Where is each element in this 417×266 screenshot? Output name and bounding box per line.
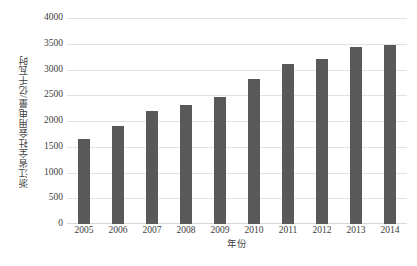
y-axis-title: 浙江省全社会用电量/亿千瓦时: [17, 26, 33, 216]
y-axis-tick-labels: 4000 3500 3000 2500 2000 1500 1000 500 0: [33, 18, 63, 224]
bar[interactable]: [248, 79, 260, 224]
bar[interactable]: [350, 47, 362, 224]
bar-slot: [203, 18, 237, 224]
bar-slot: [101, 18, 135, 224]
x-tick-label: 2009: [203, 226, 237, 236]
bar[interactable]: [180, 105, 192, 224]
bar-series: [67, 18, 407, 224]
y-tick-label: 1000: [33, 168, 63, 178]
bar[interactable]: [78, 139, 90, 224]
bar-slot: [169, 18, 203, 224]
bar-slot: [373, 18, 407, 224]
bar[interactable]: [316, 59, 328, 224]
bar-slot: [237, 18, 271, 224]
x-axis-tick-labels: 2005200620072008200920102011201220132014: [67, 226, 407, 236]
x-tick-label: 2006: [101, 226, 135, 236]
bar-chart: 浙江省全社会用电量/亿千瓦时 4000 3500 3000 2500 2000 …: [0, 0, 417, 266]
bar-slot: [135, 18, 169, 224]
bar[interactable]: [282, 64, 294, 224]
x-tick-label: 2008: [169, 226, 203, 236]
bar[interactable]: [146, 111, 158, 224]
x-axis-title: 年份: [67, 240, 407, 250]
y-tick-label: 2500: [33, 91, 63, 101]
bar-slot: [339, 18, 373, 224]
bar-slot: [67, 18, 101, 224]
y-tick-label: 500: [33, 194, 63, 204]
y-tick-label: 3000: [33, 65, 63, 75]
x-tick-label: 2010: [237, 226, 271, 236]
bar[interactable]: [112, 126, 124, 224]
x-tick-label: 2013: [339, 226, 373, 236]
y-tick-label: 0: [33, 219, 63, 229]
y-axis-title-text: 浙江省全社会用电量/亿千瓦时: [20, 55, 30, 188]
x-tick-label: 2012: [305, 226, 339, 236]
bar[interactable]: [384, 45, 396, 224]
bar-slot: [305, 18, 339, 224]
x-tick-label: 2005: [67, 226, 101, 236]
x-tick-label: 2014: [373, 226, 407, 236]
y-tick-label: 3500: [33, 39, 63, 49]
y-tick-label: 4000: [33, 13, 63, 23]
y-tick-label: 1500: [33, 142, 63, 152]
plot-area: [67, 18, 407, 224]
x-tick-label: 2007: [135, 226, 169, 236]
bar[interactable]: [214, 97, 226, 224]
bar-slot: [271, 18, 305, 224]
y-tick-label: 2000: [33, 116, 63, 126]
x-tick-label: 2011: [271, 226, 305, 236]
